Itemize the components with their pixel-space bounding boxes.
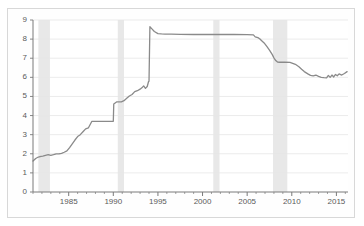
x-tick-label-2005: 2005 bbox=[232, 198, 262, 206]
y-tick-label-6: 6 bbox=[9, 73, 27, 81]
y-tick-label-2: 2 bbox=[9, 150, 27, 158]
line-chart-plot bbox=[0, 0, 364, 226]
y-tick-label-1: 1 bbox=[9, 169, 27, 177]
recession-band-1 bbox=[38, 20, 50, 192]
y-tick-label-5: 5 bbox=[9, 92, 27, 100]
x-tick-label-1990: 1990 bbox=[98, 198, 128, 206]
plot-background bbox=[33, 20, 348, 192]
y-tick-label-7: 7 bbox=[9, 54, 27, 62]
x-tick-label-2000: 2000 bbox=[188, 198, 218, 206]
x-tick-label-2010: 2010 bbox=[277, 198, 307, 206]
y-tick-label-9: 9 bbox=[9, 16, 27, 24]
y-tick-label-4: 4 bbox=[9, 112, 27, 120]
recession-band-4 bbox=[273, 20, 287, 192]
x-tick-label-1985: 1985 bbox=[54, 198, 84, 206]
x-tick-label-1995: 1995 bbox=[143, 198, 173, 206]
recession-band-3 bbox=[213, 20, 219, 192]
y-tick-label-3: 3 bbox=[9, 131, 27, 139]
y-tick-label-8: 8 bbox=[9, 35, 27, 43]
x-tick-label-2015: 2015 bbox=[321, 198, 351, 206]
y-tick-label-0: 0 bbox=[9, 188, 27, 196]
recession-band-2 bbox=[118, 20, 124, 192]
chart-container: 01234567891985199019952000200520102015 bbox=[0, 0, 364, 226]
